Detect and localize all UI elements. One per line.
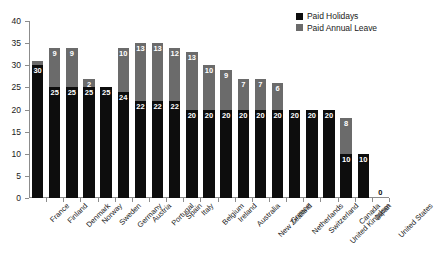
bar-segment-paid-holidays[interactable]: 20 [255,110,266,199]
y-axis-tick-label: 10 [12,149,21,159]
bar-value-label: 12 [169,50,180,58]
bar-segment-paid-holidays[interactable]: 25 [49,87,60,198]
bar-segment-paid-holidays[interactable]: 25 [66,87,77,198]
bar-segment-paid-holidays[interactable]: 22 [135,101,146,198]
bar-segment-paid-holidays[interactable]: 20 [186,110,197,199]
bar-value-label: 10 [340,156,351,164]
bar-value-label: 13 [152,45,163,53]
bar-group[interactable]: 30 [32,61,43,198]
bar-segment-paid-annual-leave[interactable]: 13 [152,43,163,101]
bar-segment-paid-annual-leave[interactable]: 12 [169,48,180,101]
bar-segment-paid-annual-leave[interactable]: 9 [49,48,60,88]
bar-group[interactable]: 252 [83,79,94,198]
bar-group[interactable]: 10 [358,154,369,198]
bar-segment-paid-annual-leave[interactable]: 9 [220,70,231,110]
bar-segment-paid-holidays[interactable]: 20 [272,110,283,199]
bar-segment-paid-annual-leave[interactable]: 9 [66,48,77,88]
bar-group[interactable]: 259 [49,48,60,198]
bar-group[interactable]: 207 [238,79,249,198]
bar-value-label: 0 [375,189,386,197]
bar-segment-paid-annual-leave[interactable]: 8 [340,118,351,153]
bar-segment-paid-holidays[interactable]: 25 [83,87,94,198]
bar-value-label: 20 [186,112,197,120]
bar-group[interactable]: 108 [340,118,351,198]
y-axis-tick [25,21,29,22]
bar-segment-paid-holidays[interactable]: 10 [358,154,369,198]
bar-segment-paid-annual-leave[interactable]: 13 [135,43,146,101]
bar-segment-paid-holidays[interactable]: 20 [203,110,214,199]
bar-group[interactable]: 0 [375,186,386,198]
legend-item-paid-holidays: Paid Holidays [296,12,377,21]
bar-group[interactable]: 207 [255,79,266,198]
bar-segment-paid-holidays[interactable]: 20 [220,110,231,199]
x-axis-category-label: Australia [256,202,282,228]
legend-label-paid-holidays: Paid Holidays [307,12,358,21]
bar-segment-paid-annual-leave[interactable]: 6 [272,83,283,110]
y-axis-tick [25,110,29,111]
bar-group[interactable]: 206 [272,83,283,198]
bar-group[interactable]: 2410 [118,48,129,198]
bar-value-label: 7 [238,81,249,89]
y-axis-tick [25,87,29,88]
y-axis-tick-label: 15 [12,127,21,137]
x-axis-tick [269,198,270,202]
bar-group[interactable]: 2213 [135,43,146,198]
bar-group[interactable]: 259 [66,48,77,198]
bar-segment-paid-annual-leave[interactable]: 10 [203,65,214,109]
x-axis-tick [200,198,201,202]
bar-group[interactable]: 25 [100,87,111,198]
x-axis-tick [98,198,99,202]
bar-group[interactable]: 2213 [152,43,163,198]
x-axis-category-label: United States [398,202,435,239]
y-axis-tick-label: 20 [12,105,21,115]
y-axis-tick [25,176,29,177]
bar-group[interactable]: 20 [323,110,334,199]
bar-segment-paid-holidays[interactable]: 30 [32,65,43,198]
y-axis-tick-label: 40 [12,16,21,26]
bar-value-label: 22 [152,103,163,111]
bar-group[interactable]: 20 [289,110,300,199]
bar-segment-paid-annual-leave[interactable]: 2 [83,79,94,88]
bar-segment-paid-holidays[interactable]: 10 [340,154,351,198]
bar-segment-paid-holidays[interactable]: 20 [289,110,300,199]
y-axis-line [29,21,30,198]
bar-segment-paid-holidays[interactable]: 22 [152,101,163,198]
bar-group[interactable]: 2212 [169,48,180,198]
bar-segment-paid-holidays[interactable]: 20 [306,110,317,199]
bar-value-label: 8 [340,120,351,128]
x-axis-tick [183,198,184,202]
bar-segment-paid-holidays[interactable]: 25 [100,87,111,198]
bar-value-label: 2 [83,81,94,89]
x-axis-tick [149,198,150,202]
bar-group[interactable]: 209 [220,70,231,198]
bar-value-label: 20 [289,112,300,120]
x-axis-tick [320,198,321,202]
x-axis-tick [132,198,133,202]
bar-group[interactable]: 20 [306,110,317,199]
bar-group[interactable]: 2010 [203,65,214,198]
bar-segment-paid-holidays[interactable]: 20 [238,110,249,199]
x-axis-tick [372,198,373,202]
bar-group[interactable]: 2013 [186,52,197,198]
bar-segment-paid-annual-leave[interactable]: 10 [118,48,129,92]
bar-value-label: 20 [255,112,266,120]
bar-value-label: 25 [66,89,77,97]
y-axis-tick-label: 35 [12,38,21,48]
bar-value-label: 20 [203,112,214,120]
bar-value-label: 22 [135,103,146,111]
bar-segment-paid-holidays[interactable]: 22 [169,101,180,198]
bar-segment-paid-annual-leave[interactable]: 7 [255,79,266,110]
x-axis-category-label: Italy [200,202,215,217]
bar-segment-paid-annual-leave[interactable]: 7 [238,79,249,110]
bar-segment-paid-holidays[interactable]: 20 [323,110,334,199]
bar-segment-paid-annual-leave[interactable]: 13 [186,52,197,110]
bar-value-label: 9 [49,50,60,58]
y-axis-tick [25,132,29,133]
bar-value-label: 9 [66,50,77,58]
bar-segment-paid-holidays[interactable]: 24 [118,92,129,198]
y-axis-tick [25,198,29,199]
bar-value-label: 22 [169,103,180,111]
bar-value-label: 25 [49,89,60,97]
bar-value-label: 30 [32,67,43,75]
bar-segment-paid-annual-leave[interactable] [32,61,43,65]
